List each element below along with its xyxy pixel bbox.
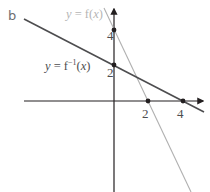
point-2-0 <box>146 99 151 104</box>
y-tick-4: 4 <box>107 28 114 43</box>
label-f: y = f(x) <box>64 7 103 21</box>
label-f-inverse: y = f−1(x) <box>43 58 90 73</box>
point-4-0 <box>181 99 186 104</box>
y-tick-2: 2 <box>107 65 114 80</box>
x-tick-4: 4 <box>177 106 184 121</box>
part-label: b <box>8 8 16 23</box>
inverse-function-graph: b 4 2 2 4 y = f(x) y = f−1(x) <box>0 0 210 192</box>
x-tick-2: 2 <box>142 106 149 121</box>
